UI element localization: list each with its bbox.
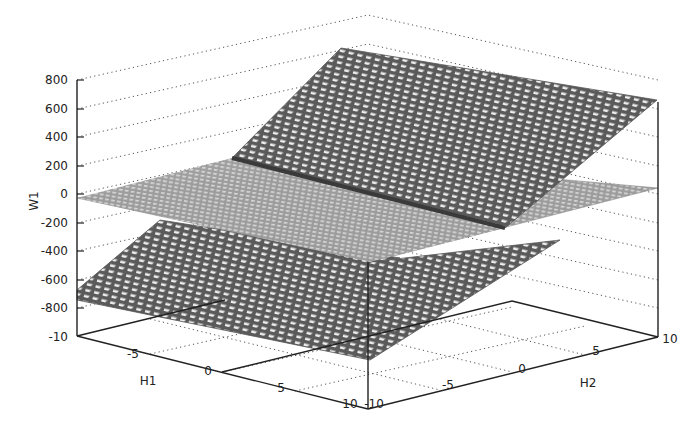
x-tick-neg5: -5 — [127, 347, 139, 361]
z-tick-600: 600 — [45, 102, 68, 116]
y-axis-label: H2 — [580, 376, 597, 390]
x-axis-label: H1 — [140, 374, 157, 388]
y-tick-neg5: -5 — [442, 378, 454, 392]
y-tick-5: 5 — [592, 344, 600, 358]
z-ticks — [77, 80, 84, 308]
surface-plot: 800 600 400 200 0 -200 -400 -600 -800 -1… — [0, 0, 695, 426]
x-tick-10: 10 — [342, 397, 357, 411]
x-tick-5: 5 — [277, 381, 285, 395]
z-axis-label: W1 — [27, 191, 41, 211]
z-tick-800: 800 — [45, 73, 68, 87]
y-tick-10: 10 — [662, 332, 677, 346]
z-tick-200: 200 — [45, 159, 68, 173]
x-tick-0: 0 — [204, 364, 212, 378]
z-tick-0: 0 — [60, 187, 68, 201]
z-tick-neg400: -400 — [41, 244, 68, 258]
y-tick-neg10: -10 — [364, 397, 384, 411]
z-tick-neg800: -800 — [41, 301, 68, 315]
z-tick-neg200: -200 — [41, 216, 68, 230]
z-tick-400: 400 — [45, 130, 68, 144]
z-tick-neg600: -600 — [41, 273, 68, 287]
z-tick-labels: 800 600 400 200 0 -200 -400 -600 -800 -1… — [41, 73, 68, 344]
x-tick-neg10: -10 — [48, 330, 68, 344]
y-tick-0: 0 — [518, 362, 526, 376]
